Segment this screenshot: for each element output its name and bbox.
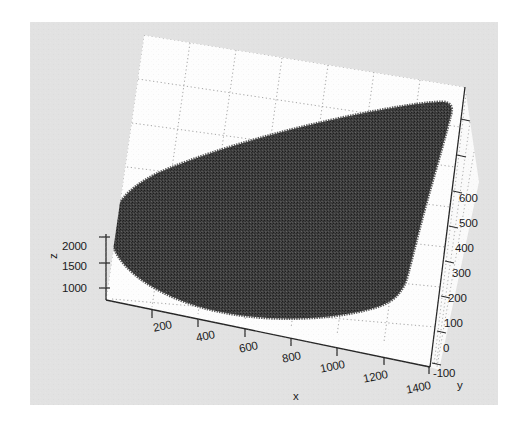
z-tick-label-2000: 2000	[62, 240, 87, 252]
z-tick-label-1500: 1500	[62, 260, 87, 272]
matlab-figure-canvas: 200 400 600 800 1000 1200 1400 x 600 500…	[30, 22, 498, 405]
x-axis-label: x	[293, 390, 299, 402]
y-tick-label-500: 500	[459, 217, 478, 229]
y-tick-label-100: 100	[444, 317, 463, 329]
y-axis-label: y	[457, 379, 463, 391]
z-axis-ticks	[99, 237, 110, 288]
screenshot-root: 200 400 600 800 1000 1200 1400 x 600 500…	[0, 0, 515, 433]
plot-3d-axes	[30, 22, 498, 405]
y-tick-label-300: 300	[452, 267, 471, 279]
y-tick-label-200: 200	[448, 292, 467, 304]
z-axis-label: z	[47, 253, 59, 259]
y-tick-label-600: 600	[459, 192, 478, 204]
z-tick-label-1000: 1000	[62, 282, 87, 294]
y-tick-label-0: 0	[443, 342, 449, 354]
y-tick-label-neg100: -100	[433, 367, 455, 379]
y-tick-label-400: 400	[455, 242, 474, 254]
